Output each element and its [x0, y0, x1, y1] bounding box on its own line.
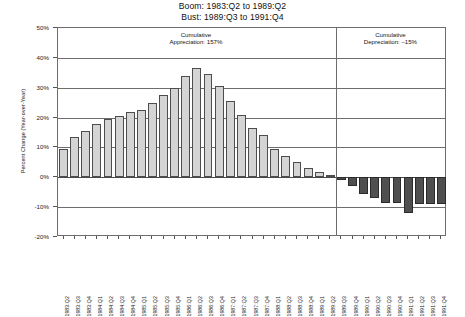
y-axis-label: Percent Change (Year-over-Year)	[20, 61, 26, 201]
y-tick-label: 20%	[1, 113, 53, 120]
x-tick-mark	[374, 236, 375, 239]
bar	[104, 119, 113, 177]
x-tick-label: 1985:Q2	[153, 296, 159, 317]
bar	[281, 156, 290, 177]
x-tick-mark	[74, 236, 75, 239]
bar	[92, 124, 101, 178]
x-tick-mark	[318, 236, 319, 239]
x-tick-mark	[118, 236, 119, 239]
x-tick-label: 1991:Q4	[442, 296, 448, 317]
x-tick-mark	[196, 236, 197, 239]
annotation-appreciation-line2: Appreciation: 157%	[57, 38, 335, 45]
bar	[337, 177, 346, 180]
x-tick-label: 1990:Q3	[387, 296, 393, 317]
x-axis-tickmarks	[57, 236, 446, 240]
x-tick-mark	[163, 236, 164, 239]
x-tick-label: 1984:Q4	[131, 296, 137, 317]
x-tick-label: 1987:Q1	[231, 296, 237, 317]
x-tick-mark	[218, 236, 219, 239]
x-tick-mark	[329, 236, 330, 239]
x-tick-mark	[385, 236, 386, 239]
bar	[304, 168, 313, 177]
x-tick-label: 1990:Q2	[376, 296, 382, 317]
y-tick-label: -10%	[1, 203, 53, 210]
bar	[237, 115, 246, 178]
bar	[215, 86, 224, 177]
x-tick-label: 1990:Q4	[398, 296, 404, 317]
x-tick-mark	[440, 236, 441, 239]
bar	[426, 177, 435, 204]
y-tick-mark	[53, 117, 57, 118]
bar	[148, 103, 157, 178]
y-tick-mark	[53, 176, 57, 177]
bar	[381, 177, 390, 202]
bar	[204, 74, 213, 177]
x-tick-label: 1988:Q2	[287, 296, 293, 317]
y-tick-label: 0%	[1, 173, 53, 180]
bar-series	[58, 28, 445, 235]
x-tick-label: 1986:Q1	[187, 296, 193, 317]
bar	[159, 95, 168, 177]
annotation-appreciation: Cumulative Appreciation: 157%	[57, 31, 335, 46]
x-tick-label: 1985:Q1	[142, 296, 148, 317]
x-tick-label: 1989:Q4	[354, 296, 360, 317]
title-line-bust: Bust: 1989:Q3 to 1991:Q4	[0, 12, 465, 23]
x-tick-label: 1990:Q1	[365, 296, 371, 317]
x-tick-label: 1983:Q2	[65, 296, 71, 317]
x-tick-mark	[352, 236, 353, 239]
x-tick-mark	[396, 236, 397, 239]
bar	[81, 131, 90, 177]
x-tick-label: 1984:Q2	[109, 296, 115, 317]
y-tick-mark	[53, 206, 57, 207]
x-tick-mark	[129, 236, 130, 239]
annotation-depreciation-line1: Cumulative	[335, 31, 446, 38]
y-tick-label: -20%	[1, 233, 53, 240]
bar	[393, 177, 402, 202]
bar	[137, 110, 146, 177]
x-tick-label: 1986:Q4	[220, 296, 226, 317]
x-tick-label: 1987:Q3	[254, 296, 260, 317]
bar	[115, 116, 124, 177]
x-tick-label: 1989:Q1	[320, 296, 326, 317]
x-tick-mark	[263, 236, 264, 239]
x-tick-mark	[107, 236, 108, 239]
x-tick-mark	[407, 236, 408, 239]
title-line-boom: Boom: 1983:Q2 to 1989:Q2	[0, 1, 465, 12]
x-tick-label: 1984:Q3	[120, 296, 126, 317]
x-tick-label: 1986:Q3	[209, 296, 215, 317]
bar	[437, 177, 446, 204]
y-tick-mark	[53, 87, 57, 88]
x-tick-label: 1983:Q4	[87, 296, 93, 317]
x-tick-mark	[140, 236, 141, 239]
x-tick-mark	[63, 236, 64, 239]
bar	[404, 177, 413, 213]
x-tick-mark	[96, 236, 97, 239]
x-tick-mark	[207, 236, 208, 239]
y-tick-mark	[53, 27, 57, 28]
x-tick-label: 1991:Q1	[409, 296, 415, 317]
x-tick-label: 1991:Q2	[420, 296, 426, 317]
annotation-appreciation-line1: Cumulative	[57, 31, 335, 38]
x-tick-label: 1988:Q1	[276, 296, 282, 317]
x-tick-mark	[340, 236, 341, 239]
bar	[59, 149, 68, 177]
x-tick-label: 1987:Q2	[242, 296, 248, 317]
bar	[293, 162, 302, 177]
y-tick-label: 30%	[1, 83, 53, 90]
x-tick-mark	[296, 236, 297, 239]
y-tick-label: 50%	[1, 24, 53, 31]
x-tick-label: 1985:Q3	[165, 296, 171, 317]
x-tick-mark	[229, 236, 230, 239]
x-tick-mark	[151, 236, 152, 239]
bar	[270, 149, 279, 177]
x-tick-label: 1987:Q4	[265, 296, 271, 317]
x-tick-mark	[85, 236, 86, 239]
bar	[248, 128, 257, 177]
x-tick-label: 1985:Q4	[176, 296, 182, 317]
bar	[348, 177, 357, 186]
boom-bust-divider	[336, 28, 337, 235]
x-tick-mark	[174, 236, 175, 239]
x-tick-label: 1991:Q3	[431, 296, 437, 317]
bar	[359, 177, 368, 193]
bar	[181, 76, 190, 178]
